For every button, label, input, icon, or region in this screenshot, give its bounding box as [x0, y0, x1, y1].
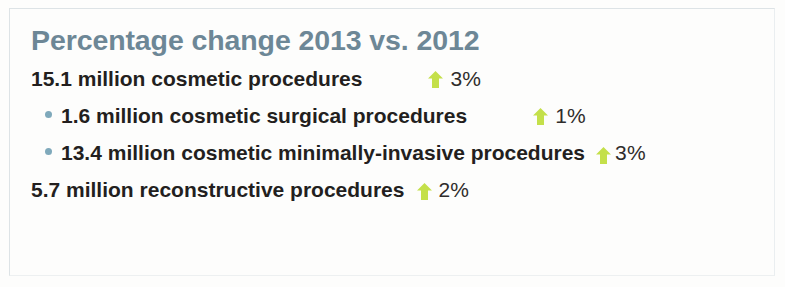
statistic-label: 13.4 million cosmetic minimally-invasive… [61, 142, 585, 163]
list-item: 1.6 million cosmetic surgical procedures… [31, 105, 755, 126]
statistic-list: 15.1 million cosmetic procedures 3% 1.6 … [31, 68, 755, 200]
list-item: 13.4 million cosmetic minimally-invasive… [31, 142, 755, 163]
change-indicator: 3% [596, 142, 646, 163]
percent-value: 1% [555, 105, 586, 126]
percent-value: 2% [438, 179, 469, 200]
percent-value: 3% [450, 68, 481, 89]
arrow-up-icon [417, 183, 431, 199]
page-title: Percentage change 2013 vs. 2012 [31, 26, 755, 56]
arrow-up-icon [596, 147, 609, 162]
arrow-up-icon [533, 108, 548, 125]
statistic-label: 1.6 million cosmetic surgical procedures [61, 105, 467, 126]
arrow-up-icon [428, 71, 443, 88]
card-content: Percentage change 2013 vs. 2012 15.1 mil… [0, 0, 785, 287]
change-indicator: 1% [533, 105, 586, 126]
percentage-change-card: Percentage change 2013 vs. 2012 15.1 mil… [0, 0, 785, 287]
percent-value: 3% [615, 142, 646, 163]
change-indicator: 2% [417, 179, 469, 200]
change-indicator: 3% [428, 68, 481, 89]
list-item: 15.1 million cosmetic procedures 3% [31, 68, 755, 89]
bullet-icon [45, 111, 52, 118]
statistic-label: 5.7 million reconstructive procedures [31, 179, 404, 200]
bullet-icon [45, 148, 52, 155]
statistic-label: 15.1 million cosmetic procedures [31, 68, 362, 89]
list-item: 5.7 million reconstructive procedures 2% [31, 179, 755, 200]
